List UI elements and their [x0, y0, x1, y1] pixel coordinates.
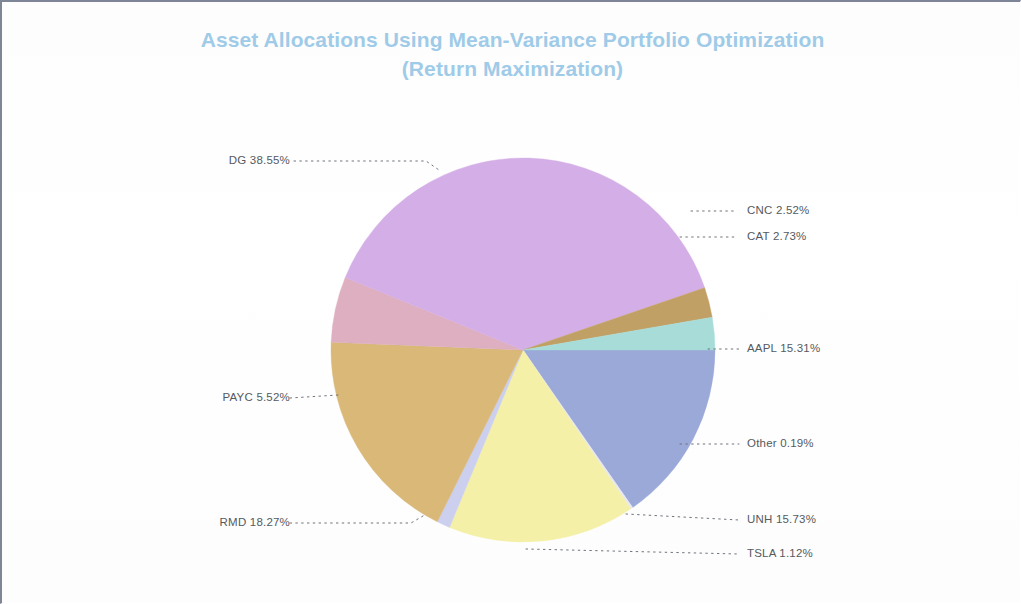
pie-slice-group	[331, 158, 715, 542]
pie-svg	[327, 154, 719, 546]
leader-line-tsla	[526, 549, 739, 554]
pie-label-tsla: TSLA 1.12%	[747, 547, 813, 559]
pie-label-payc: PAYC 5.52%	[223, 391, 290, 403]
pie-chart-figure: Asset Allocations Using Mean-Variance Po…	[2, 2, 1021, 604]
pie-label-aapl: AAPL 15.31%	[747, 342, 820, 354]
pie-label-dg: DG 38.55%	[229, 154, 290, 166]
pie-label-other: Other 0.19%	[747, 437, 814, 449]
chart-title: Asset Allocations Using Mean-Variance Po…	[2, 25, 1021, 83]
pie-graphic	[327, 154, 719, 546]
document-page: Asset Allocations Using Mean-Variance Po…	[0, 0, 1021, 604]
pie-label-rmd: RMD 18.27%	[220, 516, 290, 528]
pie-label-cnc: CNC 2.52%	[747, 204, 810, 216]
pie-label-unh: UNH 15.73%	[747, 513, 816, 525]
pie-label-cat: CAT 2.73%	[747, 230, 807, 242]
